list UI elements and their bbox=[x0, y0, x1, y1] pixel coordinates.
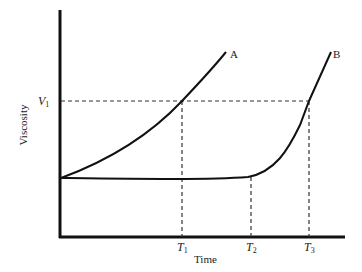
t2-label: T2 bbox=[246, 240, 257, 255]
curve-a bbox=[61, 52, 226, 178]
v1-label: V1 bbox=[38, 94, 49, 109]
t3-label: T3 bbox=[304, 240, 315, 255]
t1-label: T1 bbox=[177, 240, 188, 255]
viscosity-time-diagram: A B V1 T1 T2 T3 Time Viscosity bbox=[0, 0, 362, 272]
curve-b-label: B bbox=[333, 48, 340, 60]
curve-a-label: A bbox=[230, 48, 238, 60]
y-axis-title: Viscosity bbox=[17, 104, 29, 145]
x-axis-title: Time bbox=[194, 253, 217, 265]
